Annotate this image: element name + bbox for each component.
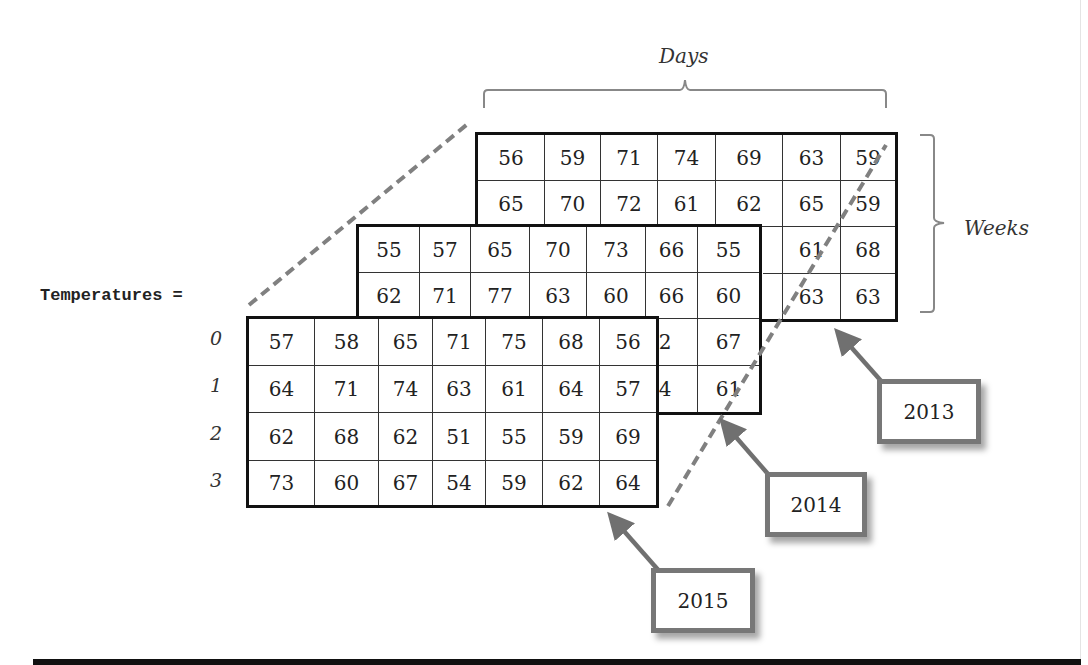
cell-2013: 59 xyxy=(841,181,895,227)
cell-2013: 72 xyxy=(601,181,658,227)
cell-2015: 64 xyxy=(249,366,315,413)
cell-2015: 68 xyxy=(543,319,600,366)
arrow-2015-icon xyxy=(616,522,660,572)
cell-2013: 65 xyxy=(783,181,841,227)
cell-2015: 64 xyxy=(600,461,656,505)
cell-2014: 77 xyxy=(471,273,530,319)
cell-2013: 61 xyxy=(658,181,716,227)
callout-2013-label: 2013 xyxy=(904,400,955,424)
cell-2015: 57 xyxy=(600,366,656,413)
cell-2015: 68 xyxy=(315,413,379,461)
cell-2015: 65 xyxy=(379,319,433,366)
callout-2014: 2014 xyxy=(765,472,867,537)
row-index-2: 2 xyxy=(192,422,222,444)
cell-2015: 61 xyxy=(486,366,543,413)
cell-2015: 75 xyxy=(486,319,543,366)
cell-2014: 71 xyxy=(420,273,471,319)
cell-2015: 57 xyxy=(249,319,315,366)
cell-2014: 60 xyxy=(587,273,646,319)
arrow-2013-icon xyxy=(843,338,882,382)
cell-2014: 55 xyxy=(359,227,420,273)
cell-2013: 71 xyxy=(601,135,658,181)
cell-2014: 60 xyxy=(698,273,759,319)
cell-2013: 74 xyxy=(658,135,716,181)
cell-2015: 71 xyxy=(315,366,379,413)
cell-2015: 56 xyxy=(600,319,656,366)
cell-2015: 74 xyxy=(379,366,433,413)
cell-2013: 70 xyxy=(545,181,601,227)
weeks-label: Weeks xyxy=(964,216,1029,240)
cell-2013: 59 xyxy=(545,135,601,181)
cell-2013: 69 xyxy=(716,135,783,181)
arrow-2014-icon xyxy=(728,428,768,474)
row-index-3: 3 xyxy=(192,469,222,491)
cell-2013: 62 xyxy=(716,181,783,227)
variable-label: Temperatures = xyxy=(40,286,183,305)
row-index-1: 1 xyxy=(192,374,222,396)
callout-2013: 2013 xyxy=(877,379,981,444)
cell-2015: 58 xyxy=(315,319,379,366)
cell-2013: 63 xyxy=(783,135,841,181)
cell-2013: 61 xyxy=(783,227,841,274)
cell-2015: 62 xyxy=(543,461,600,505)
cell-2013: 68 xyxy=(841,227,895,274)
cell-2014: 55 xyxy=(698,227,759,273)
cell-2015: 55 xyxy=(486,413,543,461)
cell-2014: 66 xyxy=(646,227,698,273)
cell-2015: 64 xyxy=(543,366,600,413)
callout-2015: 2015 xyxy=(651,568,755,633)
cell-2013: 63 xyxy=(841,274,895,319)
cell-2015: 62 xyxy=(379,413,433,461)
cell-2015: 63 xyxy=(433,366,486,413)
row-index-0: 0 xyxy=(192,327,222,349)
cell-2013: 63 xyxy=(783,274,841,319)
days-brace-icon xyxy=(484,80,886,108)
cell-2015: 51 xyxy=(433,413,486,461)
cell-2015: 54 xyxy=(433,461,486,505)
cell-2015: 69 xyxy=(600,413,656,461)
weeks-brace-icon xyxy=(920,135,944,312)
cell-2014: 62 xyxy=(359,273,420,319)
cell-2015: 60 xyxy=(315,461,379,505)
cell-2014: 61 xyxy=(698,366,759,412)
cell-2015: 71 xyxy=(433,319,486,366)
cell-2015: 67 xyxy=(379,461,433,505)
page-edge-line xyxy=(1080,0,1081,660)
cell-2013: 59 xyxy=(841,135,895,181)
cell-2013-hidden xyxy=(763,274,783,319)
cell-2015: 73 xyxy=(249,461,315,505)
callout-2015-label: 2015 xyxy=(678,589,729,613)
cell-2014: 57 xyxy=(420,227,471,273)
cell-2014: 65 xyxy=(471,227,530,273)
cell-2014: 70 xyxy=(530,227,587,273)
cell-2015: 62 xyxy=(249,413,315,461)
cell-2014: 67 xyxy=(698,319,759,366)
cell-2014: 73 xyxy=(587,227,646,273)
bottom-rule xyxy=(33,659,1081,665)
callout-2014-label: 2014 xyxy=(791,493,842,517)
cell-2014: 66 xyxy=(646,273,698,319)
cell-2013-hidden xyxy=(763,227,783,274)
cell-2014: 63 xyxy=(530,273,587,319)
days-label: Days xyxy=(659,44,709,68)
cell-2015: 59 xyxy=(486,461,543,505)
cell-2013: 65 xyxy=(478,181,545,227)
cell-2013: 56 xyxy=(478,135,545,181)
array-2015: 57 58 65 71 75 68 56 64 71 74 63 61 64 5… xyxy=(246,316,659,508)
cell-2015: 59 xyxy=(543,413,600,461)
